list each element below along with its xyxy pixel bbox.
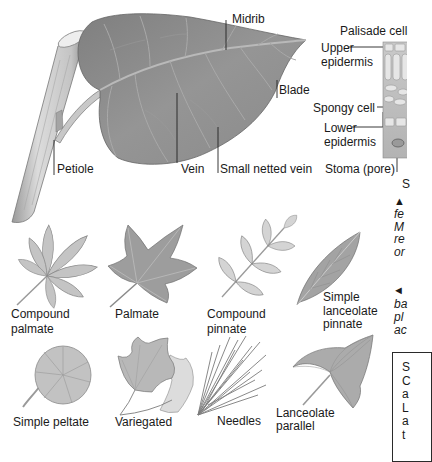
caption-left: ba pl ac [394, 298, 407, 337]
label-cutoff: S [402, 177, 410, 191]
label-petiole: Petiole [57, 162, 94, 176]
compound-pinnate-leaf-illustration [215, 213, 299, 299]
lanceolate-parallel-leaf-illustration [293, 335, 373, 408]
label-palisade-cell: Palisade cell [340, 24, 407, 38]
label-upper-epidermis-line1: Upper [321, 41, 354, 55]
label-spongy-cell: Spongy cell [313, 101, 375, 115]
label-compound-palmate: Compound palmate [11, 307, 70, 337]
caption-up: fe M re or [394, 208, 405, 258]
label-line: pinnate [323, 318, 378, 332]
label-line: parallel [276, 420, 335, 433]
box-line: a [402, 388, 411, 402]
label-line: Lanceolate [276, 407, 335, 420]
caption-line: fe [394, 208, 405, 221]
stem-illustration [12, 27, 88, 222]
label-line: Palmate [115, 307, 159, 322]
caption-line: or [394, 246, 405, 259]
label-line: Needles [217, 414, 261, 429]
label-simple-peltate: Simple peltate [13, 415, 89, 430]
needles-illustration [198, 336, 266, 415]
box-line: C [402, 375, 411, 389]
main-leaf-illustration [78, 14, 306, 165]
simple-peltate-leaf-illustration [23, 346, 91, 407]
label-vein: Vein [181, 162, 204, 176]
label-lower-epidermis-line2: epidermis [324, 135, 376, 149]
box-line: L [402, 402, 411, 416]
label-line: Simple [323, 291, 378, 305]
label-lanceolate-parallel: Lanceolate parallel [276, 407, 335, 432]
label-compound-pinnate: Compound pinnate [207, 307, 266, 337]
palmate-leaf-illustration [108, 225, 197, 307]
label-line: Simple peltate [13, 415, 89, 430]
label-line: palmate [11, 322, 70, 337]
label-line: lanceolate [323, 305, 378, 319]
sidebar-box: S C a L a t [392, 352, 432, 462]
box-line: a [402, 415, 411, 429]
label-small-netted-vein: Small netted vein [220, 162, 312, 176]
box-line: t [402, 429, 411, 443]
caption-line: ac [394, 324, 407, 337]
label-simple-lanceolate-pinnate: Simple lanceolate pinnate [323, 291, 378, 332]
label-line: Compound [11, 307, 70, 322]
label-needles: Needles [217, 414, 261, 429]
compound-palmate-leaf-illustration [16, 225, 98, 309]
box-line: S [402, 361, 411, 375]
label-blade: Blade [279, 83, 310, 97]
sidebar-box-text: S C a L a t [402, 361, 411, 442]
label-stoma: Stoma (pore) [325, 162, 395, 176]
triangle-left-icon: ◄ [393, 284, 404, 296]
label-line: Variegated [115, 415, 172, 430]
label-lower-epidermis-line1: Lower [324, 121, 357, 135]
caption-line: re [394, 233, 405, 246]
label-line: Compound [207, 307, 266, 322]
triangle-up-icon: ▲ [394, 195, 405, 207]
cross-section-illustration [383, 42, 407, 158]
label-variegated: Variegated [115, 415, 172, 430]
label-midrib: Midrib [232, 12, 265, 26]
label-upper-epidermis-line2: epidermis [321, 55, 373, 69]
label-palmate: Palmate [115, 307, 159, 322]
label-line: pinnate [207, 322, 266, 337]
variegated-leaf-illustration [118, 337, 193, 415]
